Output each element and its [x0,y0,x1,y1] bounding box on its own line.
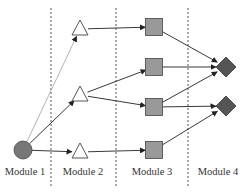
square-node-S1 [146,19,163,36]
edge-S4-D2 [161,111,217,145]
module-label-1: Module 1 [5,166,46,177]
module-label-4: Module 4 [198,166,239,177]
triangle-node-T3 [72,143,88,158]
diamond-node-D1 [216,57,236,77]
diamond-node-D2 [216,96,236,116]
module-diagram [0,0,249,194]
circle-node-C1 [14,141,32,159]
edge-C1-T3 [32,150,72,151]
edge-T2-S3 [88,96,146,105]
square-node-S3 [146,99,163,116]
module-label-2: Module 2 [63,166,104,177]
edge-C1-T1 [27,36,77,142]
square-node-S2 [146,59,163,76]
module-label-3: Module 3 [132,166,173,177]
square-node-S4 [146,142,163,159]
triangle-node-T1 [72,20,88,35]
edge-T2-S2 [87,70,146,92]
edge-S3-D2 [162,106,216,107]
edge-T3-S4 [88,150,146,152]
triangle-node-T2 [72,86,88,101]
edge-T1-S1 [88,27,146,29]
edge-S3-D1 [161,72,217,103]
edge-S1-D1 [161,31,217,62]
